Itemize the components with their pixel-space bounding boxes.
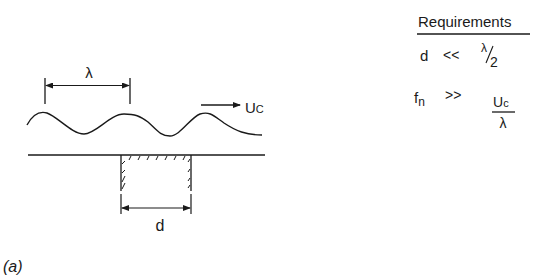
requirement-1-rhs-numerator: λ bbox=[481, 41, 487, 55]
requirements-title: Requirements bbox=[418, 13, 511, 30]
requirements-block: Requirements d << λ 2 fn >> Uc λ bbox=[414, 13, 530, 131]
cavity-width-label: d bbox=[156, 217, 165, 234]
schematic-diagram: λ UC bbox=[0, 0, 540, 278]
cavity-width-dimension: d bbox=[121, 194, 191, 234]
requirement-1-operator: << bbox=[443, 47, 459, 63]
wavelength-label: λ bbox=[85, 64, 93, 81]
requirement-2-lhs: fn bbox=[414, 89, 425, 109]
sensor-cavity bbox=[121, 155, 191, 191]
convection-velocity-label: UC bbox=[245, 99, 264, 116]
requirement-row-2: fn >> Uc λ bbox=[414, 87, 515, 131]
requirement-2-operator: >> bbox=[445, 87, 461, 103]
requirement-1-lhs: d bbox=[420, 47, 428, 64]
wavelength-dimension: λ bbox=[45, 64, 130, 104]
requirement-1-rhs-denominator: 2 bbox=[490, 54, 498, 70]
pressure-wave bbox=[27, 112, 262, 136]
requirement-row-1: d << λ 2 bbox=[420, 41, 498, 70]
cavity-hatching bbox=[122, 156, 190, 189]
figure-caption: (a) bbox=[3, 258, 23, 275]
requirement-2-rhs-denominator: λ bbox=[500, 115, 507, 131]
requirement-2-rhs-numerator: Uc bbox=[493, 94, 509, 110]
